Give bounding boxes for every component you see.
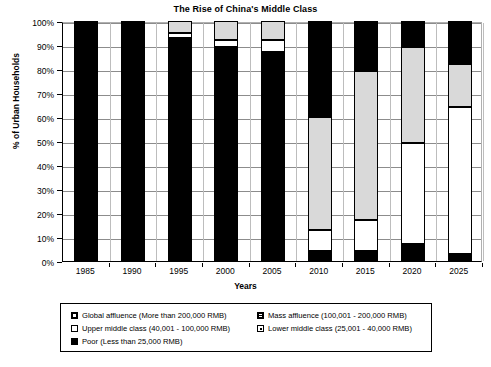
x-gridline [390, 23, 391, 261]
x-axis-tick-mark [155, 263, 156, 267]
y-axis-tick-mark [57, 118, 62, 119]
y-axis-tick-label: 90% [37, 42, 54, 52]
y-axis-tick-mark [57, 166, 62, 167]
bar-column[interactable] [308, 21, 332, 261]
y-axis-tick-label: 30% [37, 186, 54, 196]
bar-segment-lower[interactable] [308, 230, 332, 252]
bar-segment-mass[interactable] [448, 31, 472, 65]
x-axis-tick-label: 1990 [123, 266, 142, 276]
x-axis-tick-mark [389, 263, 390, 267]
bar-segment-lower[interactable] [401, 143, 425, 244]
bar-segment-mass[interactable] [354, 31, 378, 72]
y-axis-title: % of Urban Households [11, 46, 21, 156]
y-axis-tick-mark [57, 190, 62, 191]
bar-segment-mass[interactable] [308, 38, 332, 117]
bar-segment-upper[interactable] [354, 71, 378, 220]
bar-segment-upper[interactable] [308, 117, 332, 230]
bar-segment-poor[interactable] [121, 21, 145, 261]
x-axis-tick-label: 1985 [76, 266, 95, 276]
bar-column[interactable] [74, 21, 98, 261]
bar-segment-poor[interactable] [214, 47, 238, 261]
bar-segment-lower[interactable] [354, 220, 378, 251]
y-axis-tick-mark [57, 142, 62, 143]
y-axis-tick-label: 40% [37, 162, 54, 172]
bar-column[interactable] [214, 21, 238, 261]
x-gridline [436, 23, 437, 261]
bar-column[interactable] [354, 21, 378, 261]
x-axis-tick-mark [435, 263, 436, 267]
legend-item[interactable]: Upper middle class (40,001 - 100,000 RMB… [71, 324, 230, 333]
y-axis-tick-label: 60% [37, 114, 54, 124]
x-axis-tick-mark [482, 263, 483, 267]
bar-column[interactable] [168, 21, 192, 261]
bar-segment-upper[interactable] [401, 47, 425, 143]
bar-segment-lower[interactable] [261, 40, 285, 52]
x-gridline [483, 23, 484, 261]
y-axis-tick-label: 70% [37, 90, 54, 100]
legend-label: Lower middle class (25,001 - 40,000 RMB) [268, 324, 412, 333]
y-axis-tick-mark [57, 70, 62, 71]
y-axis-tick-label: 100% [32, 18, 54, 28]
bar-segment-global[interactable] [448, 21, 472, 31]
bar-column[interactable] [261, 21, 285, 261]
bar-column[interactable] [401, 21, 425, 261]
bar-segment-lower[interactable] [168, 33, 192, 38]
bar-segment-upper[interactable] [261, 21, 285, 40]
bar-segment-upper[interactable] [214, 21, 238, 40]
x-gridline [296, 23, 297, 261]
bar-column[interactable] [448, 21, 472, 261]
bar-segment-upper[interactable] [448, 64, 472, 107]
y-axis-tick-label: 80% [37, 66, 54, 76]
x-gridline [156, 23, 157, 261]
y-axis-tick-mark [57, 214, 62, 215]
legend-item[interactable]: Mass affluence (100,001 - 200,000 RMB) [257, 311, 407, 320]
bar-segment-poor[interactable] [261, 52, 285, 261]
bar-segment-poor[interactable] [308, 251, 332, 261]
x-axis-tick-mark [249, 263, 250, 267]
bar-segment-lower[interactable] [214, 40, 238, 47]
y-axis-tick-label: 50% [37, 138, 54, 148]
x-axis-tick-mark [295, 263, 296, 267]
legend-label: Poor (Less than 25,000 RMB) [82, 337, 182, 346]
legend-label: Mass affluence (100,001 - 200,000 RMB) [268, 311, 407, 320]
legend-item[interactable]: Lower middle class (25,001 - 40,000 RMB) [257, 324, 412, 333]
legend-swatch-icon [257, 325, 264, 332]
bar-segment-global[interactable] [401, 21, 425, 26]
legend-item[interactable]: Global affluence (More than 200,000 RMB) [71, 311, 227, 320]
bar-segment-poor[interactable] [401, 244, 425, 261]
x-axis-title: Years [0, 281, 491, 291]
y-axis-tick-mark [57, 22, 62, 23]
legend-swatch-icon [257, 312, 264, 319]
bar-segment-poor[interactable] [354, 251, 378, 261]
bar-segment-poor[interactable] [74, 21, 98, 261]
chart-legend: Global affluence (More than 200,000 RMB)… [60, 303, 432, 352]
x-axis-tick-label: 2010 [309, 266, 328, 276]
y-axis-tick-mark [57, 46, 62, 47]
y-axis-tick-label: 10% [37, 234, 54, 244]
y-axis-tick-mark [57, 94, 62, 95]
legend-swatch-icon [71, 325, 78, 332]
legend-swatch-icon [71, 312, 78, 319]
x-axis-tick-label: 2000 [216, 266, 235, 276]
chart-container: The Rise of China's Middle Class 0%10%20… [0, 0, 491, 367]
y-axis-tick-label: 20% [37, 210, 54, 220]
y-axis-tick-mark [57, 238, 62, 239]
chart-title: The Rise of China's Middle Class [0, 4, 491, 14]
y-axis-tick-mark [57, 262, 62, 263]
legend-swatch-icon [71, 338, 78, 345]
bar-segment-mass[interactable] [401, 26, 425, 48]
bar-segment-poor[interactable] [448, 254, 472, 261]
legend-label: Upper middle class (40,001 - 100,000 RMB… [82, 324, 230, 333]
bar-segment-upper[interactable] [168, 21, 192, 33]
bar-segment-global[interactable] [308, 21, 332, 38]
bar-segment-lower[interactable] [448, 107, 472, 253]
bar-column[interactable] [121, 21, 145, 261]
y-axis: 0%10%20%30%40%50%60%70%80%90%100% [0, 22, 60, 263]
bar-segment-poor[interactable] [168, 38, 192, 261]
plot-area [62, 22, 482, 262]
bar-segment-global[interactable] [354, 21, 378, 31]
legend-item[interactable]: Poor (Less than 25,000 RMB) [71, 337, 182, 346]
x-gridline [110, 23, 111, 261]
x-gridline [343, 23, 344, 261]
x-axis-tick-label: 2025 [449, 266, 468, 276]
